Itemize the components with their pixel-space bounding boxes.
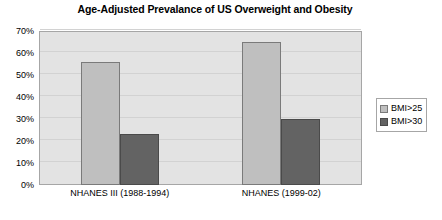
gridline bbox=[40, 29, 361, 30]
y-tick-label: 30% bbox=[0, 115, 34, 124]
chart-title: Age-Adjusted Prevalance of US Overweight… bbox=[50, 3, 380, 15]
bars-layer bbox=[39, 31, 362, 185]
x-tick-label: NHANES III (1988-1994) bbox=[39, 189, 201, 198]
x-tick-label: NHANES (1999-02) bbox=[201, 189, 363, 198]
legend-swatch-icon bbox=[380, 118, 388, 126]
y-tick-label: 70% bbox=[0, 27, 34, 36]
legend-label: BMI>25 bbox=[391, 104, 422, 113]
bar bbox=[242, 42, 281, 185]
y-tick-label: 20% bbox=[0, 137, 34, 146]
y-axis: 0%10%20%30%40%50%60%70% bbox=[0, 31, 34, 185]
x-axis: NHANES III (1988-1994)NHANES (1999-02) bbox=[39, 189, 362, 205]
bar bbox=[120, 134, 159, 185]
legend-label: BMI>30 bbox=[391, 117, 422, 126]
legend-entry[interactable]: BMI>25 bbox=[380, 102, 422, 115]
legend-swatch-icon bbox=[380, 105, 388, 113]
legend-entry[interactable]: BMI>30 bbox=[380, 115, 422, 128]
y-tick-label: 40% bbox=[0, 93, 34, 102]
y-tick-label: 0% bbox=[0, 181, 34, 190]
bar bbox=[81, 62, 120, 185]
y-tick-label: 60% bbox=[0, 49, 34, 58]
y-tick-label: 50% bbox=[0, 71, 34, 80]
bar-chart: Age-Adjusted Prevalance of US Overweight… bbox=[0, 0, 442, 220]
bar bbox=[281, 119, 320, 185]
y-tick-label: 10% bbox=[0, 159, 34, 168]
legend: BMI>25BMI>30 bbox=[376, 98, 427, 132]
